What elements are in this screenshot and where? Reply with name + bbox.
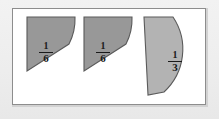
numerator: 1 <box>96 41 110 51</box>
figure-frame: 1 6 1 6 1 3 <box>12 8 206 105</box>
numerator: 1 <box>168 50 182 60</box>
denominator: 3 <box>168 62 182 73</box>
sector-label-one-sixth-b: 1 6 <box>96 41 110 64</box>
numerator: 1 <box>39 41 53 51</box>
denominator: 6 <box>96 53 110 64</box>
figure-page: 1 6 1 6 1 3 <box>0 0 219 119</box>
denominator: 6 <box>39 53 53 64</box>
sector-label-one-third: 1 3 <box>168 50 182 73</box>
sector-label-one-sixth-a: 1 6 <box>39 41 53 64</box>
